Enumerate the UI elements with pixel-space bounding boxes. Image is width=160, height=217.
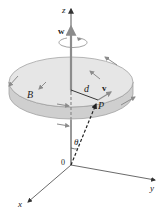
angular-velocity-label: w xyxy=(58,26,65,36)
x-axis xyxy=(28,165,71,202)
angle-theta-label: θ xyxy=(74,137,79,147)
z-axis-label: z xyxy=(61,5,66,15)
coordinate-axes xyxy=(28,120,155,202)
y-axis xyxy=(71,165,155,180)
point-b-label: B xyxy=(27,89,33,100)
point-p-label: P xyxy=(97,100,104,111)
x-axis-label: x xyxy=(17,199,22,209)
angle-theta-arc xyxy=(71,148,78,149)
origin-label: 0 xyxy=(61,158,65,167)
velocity-v-label: v xyxy=(102,83,107,93)
y-axis-label: y xyxy=(149,183,154,193)
rotating-disk-diagram: z w B d v P θ 0 y x xyxy=(0,0,160,217)
disk-arrow-side xyxy=(57,124,69,126)
rotation-indicator-icon xyxy=(59,37,87,48)
